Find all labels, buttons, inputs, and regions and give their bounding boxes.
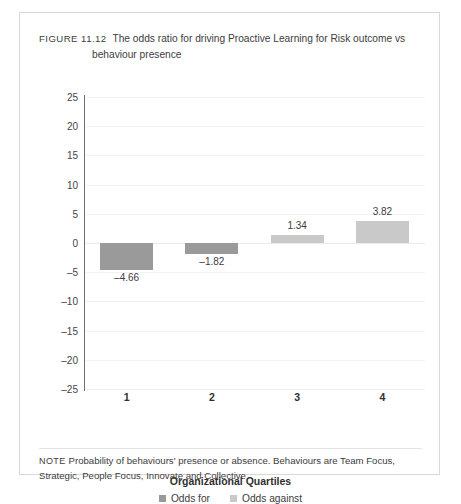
gridline — [84, 389, 425, 390]
figure-caption-line2: behaviour presence — [39, 47, 421, 63]
x-axis-tick-label: 4 — [379, 391, 385, 403]
y-axis-tick-label: 0 — [72, 238, 78, 249]
bar-value-label: 3.82 — [373, 206, 392, 217]
legend-label: Odds against — [242, 493, 302, 504]
legend-swatch-icon — [230, 495, 237, 502]
figure-card: FIGURE 11.12 The odds ratio for driving … — [19, 12, 440, 475]
chart-legend: Odds forOdds against — [20, 493, 441, 504]
chart-bar — [100, 243, 153, 270]
y-axis-tick-label: 5 — [72, 208, 78, 219]
bars-layer: –4.66–1.821.343.82 — [84, 97, 425, 389]
bar-value-label: 1.34 — [287, 220, 306, 231]
x-axis-tick-label: 3 — [294, 391, 300, 403]
y-axis-tick-label: 15 — [67, 150, 78, 161]
y-axis-tick-labels: 2520151050–5–10–15–20–25 — [44, 97, 78, 389]
legend-swatch-icon — [159, 495, 166, 502]
legend-item: Odds against — [230, 493, 302, 504]
figure-caption-line1: The odds ratio for driving Proactive Lea… — [109, 33, 405, 44]
y-axis-tick-label: 25 — [67, 92, 78, 103]
note-label: NOTE — [39, 456, 66, 466]
y-axis-tick-label: –15 — [61, 325, 78, 336]
note-divider — [39, 448, 422, 449]
chart-plot: 2520151050–5–10–15–20–25 –4.66–1.821.343… — [20, 79, 441, 409]
y-axis-tick-label: –25 — [61, 384, 78, 395]
chart-bar — [271, 235, 324, 243]
x-axis-tick-label: 2 — [209, 391, 215, 403]
figure-number: FIGURE 11.12 — [39, 33, 107, 44]
x-axis-tick-label: 1 — [124, 391, 130, 403]
figure-caption: FIGURE 11.12 The odds ratio for driving … — [39, 31, 421, 62]
y-axis-tick-label: –5 — [67, 267, 78, 278]
bar-value-label: –4.66 — [114, 272, 139, 283]
chart-bar — [356, 221, 409, 243]
legend-item: Odds for — [159, 493, 210, 504]
bar-value-label: –1.82 — [199, 256, 224, 267]
y-axis-tick-label: –10 — [61, 296, 78, 307]
chart-bar — [185, 243, 238, 254]
y-axis-tick-label: 10 — [67, 179, 78, 190]
legend-label: Odds for — [171, 493, 210, 504]
x-axis-tick-labels: 1234 — [84, 391, 425, 409]
note-line2: People Focus, Innovate and Collective — [82, 470, 246, 481]
y-axis-tick-label: –20 — [61, 354, 78, 365]
figure-note: NOTEProbability of behaviours' presence … — [39, 454, 424, 483]
y-axis-tick-label: 20 — [67, 121, 78, 132]
